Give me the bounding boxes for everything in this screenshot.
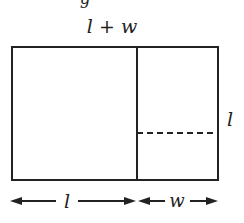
bottom-left-arrow [10, 197, 136, 205]
caption-fragment: g [80, 0, 90, 8]
rectangle-diagram: g l + w l l w [0, 0, 244, 223]
top-dimension-label: l + w [87, 15, 137, 37]
bottom-left-dimension-label: l [64, 190, 70, 212]
right-dimension-label: l [227, 108, 233, 130]
outer-rectangle [12, 47, 218, 180]
bottom-right-dimension-label: w [169, 190, 185, 211]
